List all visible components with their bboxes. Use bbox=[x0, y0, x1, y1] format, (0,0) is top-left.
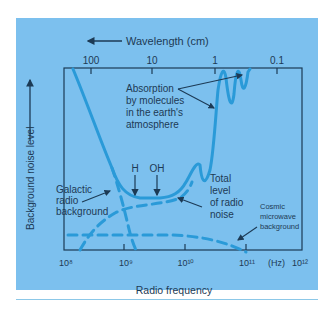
cosmic-annotation: Cosmic microwave background bbox=[238, 202, 299, 240]
galactic-annotation: Galactic radio background bbox=[56, 184, 110, 217]
bottom-tick-1e12: 10¹² bbox=[292, 258, 308, 268]
absorption-label: Absorption by molecules in the earth's a… bbox=[126, 83, 187, 130]
pointer-arrow-icon bbox=[178, 198, 202, 207]
top-tick-1: 1 bbox=[212, 55, 218, 66]
h-label: H bbox=[131, 163, 138, 174]
chart-svg: Wavelength (cm) 100 10 1 0.1 H OH bbox=[0, 0, 330, 318]
oh-marker: OH bbox=[150, 163, 165, 195]
top-tick-10: 10 bbox=[146, 55, 158, 66]
bottom-tick-1e11: 10¹¹ bbox=[239, 258, 255, 268]
radio-frequency-label: Radio frequency bbox=[136, 284, 213, 296]
galactic-label: Galactic radio background bbox=[56, 184, 108, 217]
noise-level-axis-title: Background noise level bbox=[25, 80, 36, 230]
top-tick-100: 100 bbox=[83, 55, 100, 66]
total-label: Total level of radio noise bbox=[210, 173, 246, 220]
hz-unit-label: (Hz) bbox=[268, 258, 285, 268]
bottom-tick-1e10: 10¹⁰ bbox=[177, 258, 194, 268]
wavelength-axis-title: Wavelength (cm) bbox=[88, 35, 209, 47]
bottom-ticks bbox=[124, 244, 246, 250]
cosmic-label: Cosmic microwave background bbox=[260, 202, 299, 231]
pointer-arrow-icon bbox=[178, 75, 242, 89]
noise-level-label: Background noise level bbox=[25, 127, 36, 230]
h-marker: H bbox=[131, 163, 138, 195]
absorption-annotation: Absorption by molecules in the earth's a… bbox=[126, 75, 242, 130]
top-tick-0.1: 0.1 bbox=[270, 55, 284, 66]
bottom-tick-1e9: 10⁹ bbox=[119, 258, 133, 268]
wavelength-label: Wavelength (cm) bbox=[126, 35, 209, 47]
bottom-tick-1e8: 10⁸ bbox=[59, 258, 73, 268]
oh-label: OH bbox=[150, 163, 165, 174]
pointer-arrow-icon bbox=[238, 227, 257, 240]
